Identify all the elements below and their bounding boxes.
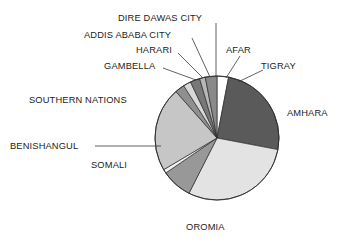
- pie-label-southern-nations: SOUTHERN NATIONS: [29, 95, 127, 105]
- pie-label-addis-ababa-city: ADDIS ABABA CITY: [84, 30, 171, 40]
- leader-line-gambella: [163, 68, 196, 80]
- leader-line-harari: [178, 53, 203, 78]
- pie-label-amhara: AMHARA: [287, 108, 328, 118]
- pie-label-dire-dawas-city: DIRE DAWAS CITY: [118, 13, 202, 23]
- pie-slice-amhara[interactable]: [217, 77, 279, 150]
- leader-line-addis-ababa-city: [192, 38, 210, 77]
- pie-label-gambella: GAMBELLA: [104, 61, 155, 71]
- pie-chart-canvas: [0, 0, 347, 243]
- pie-label-afar: AFAR: [226, 45, 251, 55]
- leader-line-afar: [226, 56, 240, 78]
- pie-label-tigray: TIGRAY: [261, 61, 296, 71]
- pie-slice-group: [155, 76, 279, 200]
- pie-label-benishangul: BENISHANGUL: [10, 141, 78, 151]
- pie-chart: DIRE DAWAS CITY ADDIS ABABA CITY HARARI …: [0, 0, 347, 243]
- pie-label-harari: HARARI: [136, 45, 172, 55]
- pie-label-somali: SOMALI: [91, 160, 127, 170]
- pie-label-oromia: OROMIA: [186, 222, 225, 232]
- leader-line-tigray: [238, 70, 263, 82]
